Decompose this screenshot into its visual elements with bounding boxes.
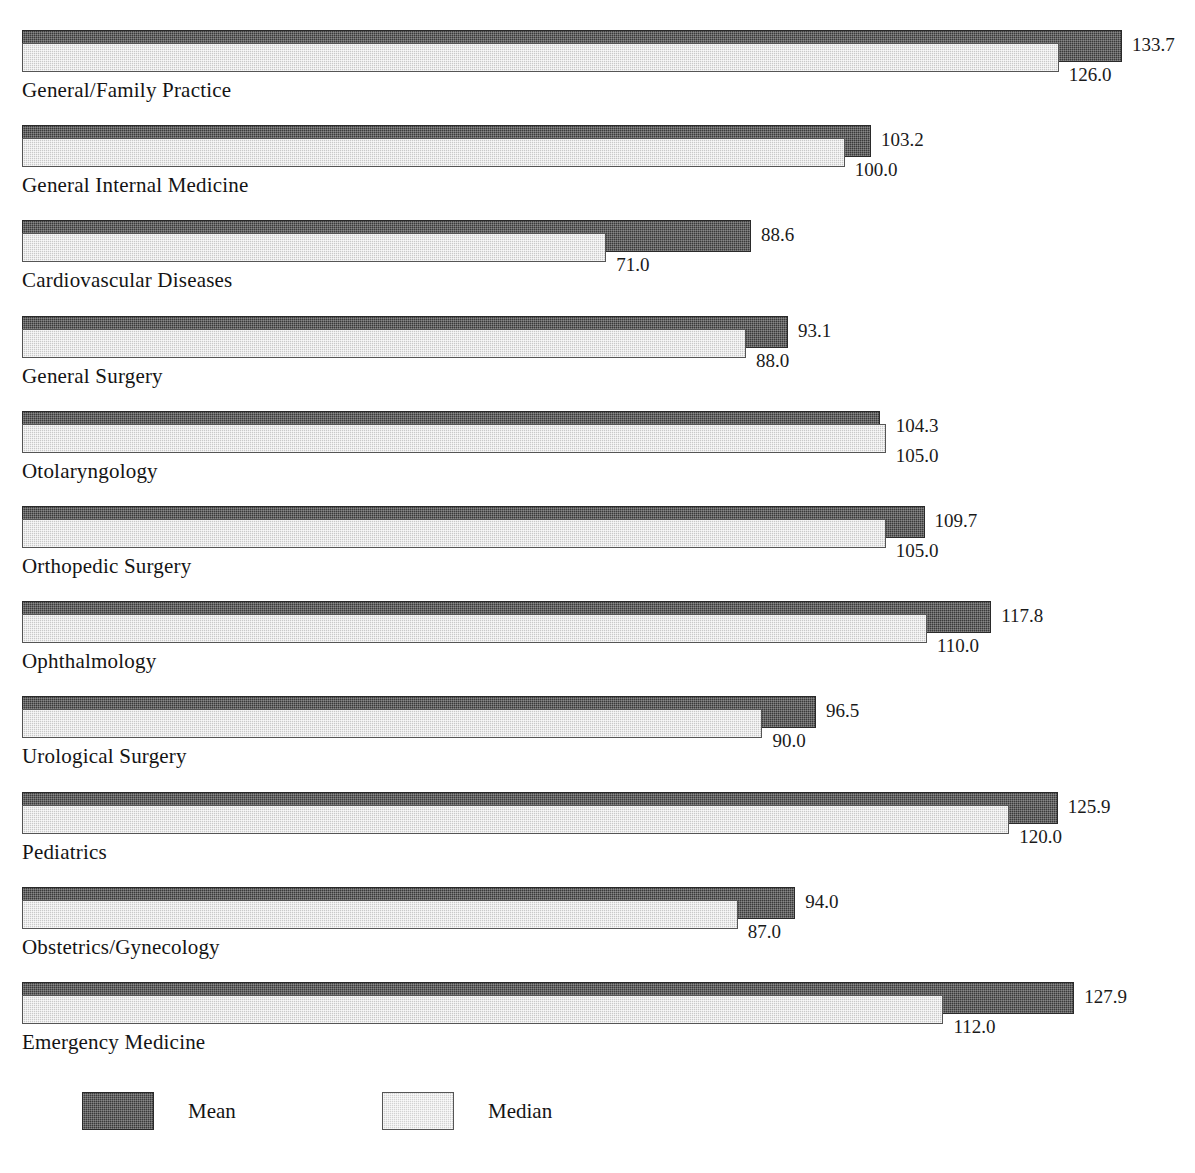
category-label: Otolaryngology (22, 459, 158, 484)
value-label-mean: 104.3 (896, 415, 939, 437)
bar-median (22, 329, 746, 358)
category-label: General Internal Medicine (22, 173, 249, 198)
bar-group: 88.671.0Cardiovascular Diseases (0, 212, 1195, 307)
legend-label: Median (488, 1099, 552, 1124)
bar-median (22, 43, 1059, 72)
bar-median (22, 519, 886, 548)
bar-group: 103.2100.0General Internal Medicine (0, 117, 1195, 212)
bar-group: 125.9120.0Pediatrics (0, 784, 1195, 879)
chart-legend: MeanMedian (0, 1088, 1195, 1148)
chart-page: 133.7126.0General/Family Practice103.210… (0, 0, 1195, 1173)
category-label: Obstetrics/Gynecology (22, 935, 220, 960)
bar-median (22, 709, 762, 738)
bar-median (22, 900, 738, 929)
value-label-mean: 109.7 (935, 510, 978, 532)
value-label-mean: 88.6 (761, 224, 794, 246)
category-label: Pediatrics (22, 840, 107, 865)
value-label-median: 126.0 (1069, 64, 1112, 86)
value-label-mean: 103.2 (881, 129, 924, 151)
legend-label: Mean (188, 1099, 236, 1124)
bar-median (22, 614, 927, 643)
value-label-median: 110.0 (937, 635, 979, 657)
bar-group: 117.8110.0Ophthalmology (0, 593, 1195, 688)
bar-median (22, 424, 886, 453)
bar-group: 96.590.0Urological Surgery (0, 688, 1195, 783)
bar-group: 94.087.0Obstetrics/Gynecology (0, 879, 1195, 974)
value-label-median: 105.0 (896, 540, 939, 562)
legend-item: Mean (82, 1088, 236, 1134)
value-label-median: 105.0 (896, 445, 939, 467)
category-label: General Surgery (22, 364, 163, 389)
value-label-mean: 125.9 (1068, 796, 1111, 818)
category-label: Ophthalmology (22, 649, 156, 674)
value-label-median: 71.0 (616, 254, 649, 276)
bar-median (22, 233, 606, 262)
value-label-mean: 94.0 (805, 891, 838, 913)
value-label-median: 112.0 (953, 1016, 995, 1038)
bar-group: 127.9112.0Emergency Medicine (0, 974, 1195, 1069)
bar-chart-plot-area: 133.7126.0General/Family Practice103.210… (0, 0, 1195, 1060)
value-label-median: 120.0 (1019, 826, 1062, 848)
value-label-median: 100.0 (855, 159, 898, 181)
bar-group: 93.188.0General Surgery (0, 308, 1195, 403)
value-label-mean: 133.7 (1132, 34, 1175, 56)
value-label-median: 88.0 (756, 350, 789, 372)
value-label-median: 90.0 (772, 730, 805, 752)
category-label: Emergency Medicine (22, 1030, 205, 1055)
median-swatch (382, 1092, 454, 1130)
bar-median (22, 805, 1009, 834)
bar-median (22, 138, 845, 167)
category-label: Orthopedic Surgery (22, 554, 191, 579)
value-label-mean: 93.1 (798, 320, 831, 342)
bar-group: 104.3105.0Otolaryngology (0, 403, 1195, 498)
value-label-mean: 117.8 (1001, 605, 1043, 627)
category-label: General/Family Practice (22, 78, 231, 103)
value-label-mean: 96.5 (826, 700, 859, 722)
mean-swatch (82, 1092, 154, 1130)
value-label-mean: 127.9 (1084, 986, 1127, 1008)
value-label-median: 87.0 (748, 921, 781, 943)
category-label: Urological Surgery (22, 744, 187, 769)
bar-group: 109.7105.0Orthopedic Surgery (0, 498, 1195, 593)
legend-item: Median (382, 1088, 552, 1134)
bar-median (22, 995, 943, 1024)
category-label: Cardiovascular Diseases (22, 268, 232, 293)
bar-group: 133.7126.0General/Family Practice (0, 22, 1195, 117)
